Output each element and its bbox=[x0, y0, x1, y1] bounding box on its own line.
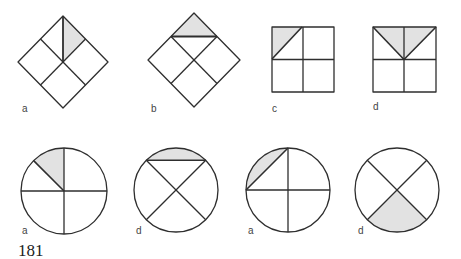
shaded-region bbox=[172, 13, 217, 37]
figure-label: d bbox=[373, 101, 379, 112]
figure-circle-d2: d bbox=[355, 148, 439, 236]
shaded-region bbox=[63, 16, 86, 62]
figure-label: a bbox=[248, 225, 254, 236]
figure-label: c bbox=[272, 103, 277, 114]
shaded-region bbox=[34, 148, 64, 191]
figure-circle-d1: d bbox=[134, 148, 218, 236]
figure-label: b bbox=[151, 103, 157, 114]
figure-square-c: c bbox=[272, 27, 334, 114]
figure-label: d bbox=[136, 225, 142, 236]
figure-circle-a2: a bbox=[246, 148, 330, 236]
figure-square-d: d bbox=[373, 27, 436, 112]
figure-diamond-b: b bbox=[148, 13, 240, 114]
figure-label: d bbox=[358, 225, 364, 236]
worksheet-page: a b c d a bbox=[0, 0, 461, 259]
figure-label: a bbox=[22, 225, 28, 236]
figure-circle-a1: a bbox=[21, 148, 107, 236]
page-number: 181 bbox=[18, 241, 44, 259]
figure-label: a bbox=[22, 103, 28, 114]
figure-diamond-a: a bbox=[18, 16, 108, 114]
